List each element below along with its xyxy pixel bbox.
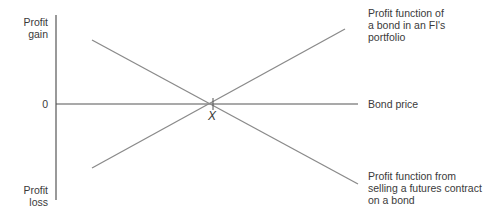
intersection-label: X (208, 110, 216, 122)
x-axis-label: Bond price (368, 98, 418, 110)
futures-profit-line (92, 40, 358, 184)
bond-profit-label: Profit function of a bond in an FI's por… (368, 7, 445, 43)
zero-label: 0 (10, 98, 48, 110)
bond-profit-line (92, 29, 345, 168)
futures-profit-label: Profit function from selling a futures c… (368, 170, 482, 206)
y-axis-bottom-label: Profit loss (10, 184, 48, 208)
y-axis-top-label: Profit gain (10, 16, 48, 40)
